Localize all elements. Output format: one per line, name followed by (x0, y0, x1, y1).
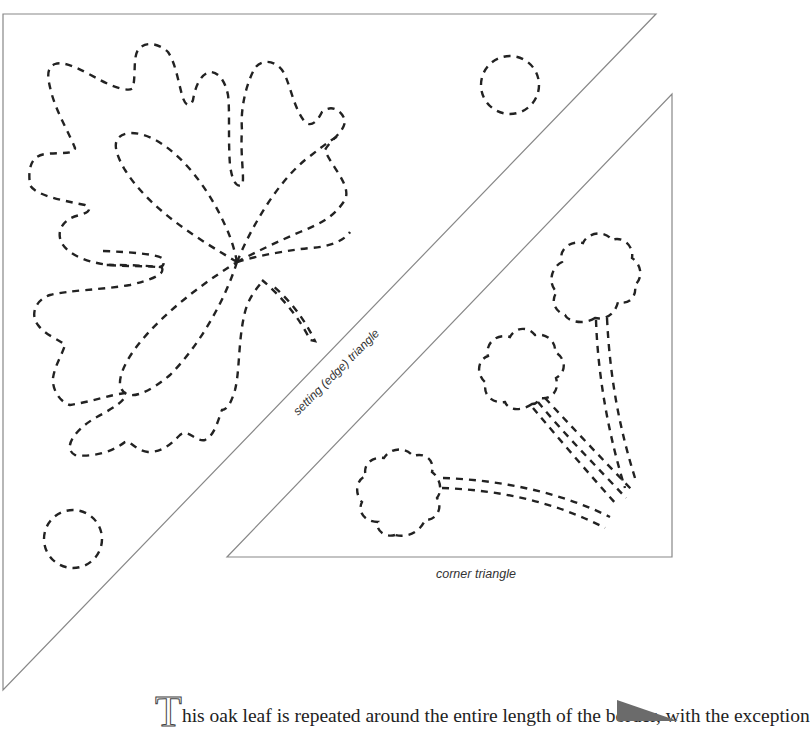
circle-motif-top-right (481, 56, 539, 114)
flower-middle-stem-a (533, 408, 617, 505)
flower-top (551, 234, 640, 322)
oak-leaf-vein-right-lobe (237, 135, 340, 262)
flower-top-stem-b (607, 318, 635, 478)
flower-bottom-stem-b (442, 488, 605, 528)
setting-triangle-label: setting (edge) triangle (290, 326, 382, 418)
flower-middle (479, 329, 564, 409)
corner-triangle-label: corner triangle (436, 567, 516, 581)
body-text-line: his oak leaf is repeated around the enti… (182, 705, 810, 726)
oak-leaf-vein-left-notch (103, 251, 164, 267)
setting-triangle-outline (3, 14, 656, 690)
flower-top-stem-a (596, 320, 625, 488)
flower-bottom-left (357, 449, 440, 535)
flower-middle-stem-b (538, 402, 626, 498)
body-paragraph: This oak leaf is repeated around the ent… (155, 686, 810, 730)
oak-leaf-outline (29, 44, 346, 456)
circle-motif-bottom-left (44, 510, 102, 568)
page-corner-marker (617, 700, 678, 721)
drop-cap: T (155, 687, 182, 731)
corner-triangle-outline (227, 94, 672, 557)
oak-leaf-vein-left-lobe (116, 133, 237, 262)
oak-leaf-outline-upper (237, 232, 350, 262)
flower-bottom-stem-a (443, 478, 610, 517)
oak-leaf-stem (262, 280, 315, 341)
